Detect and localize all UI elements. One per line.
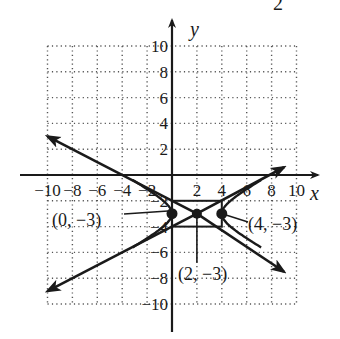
x-axis-label: x	[309, 182, 319, 204]
key-points	[167, 208, 228, 219]
x-tick-label: 2	[193, 181, 202, 200]
x-tick-labels: −10−8−6−4−2246810	[34, 181, 305, 200]
x-tick-label: 10	[288, 181, 305, 200]
y-tick-label: −10	[141, 295, 168, 314]
y-tick-label: 6	[160, 89, 169, 108]
center-label: (2, −3)	[178, 264, 227, 285]
y-tick-label: 4	[160, 114, 169, 133]
center-point	[192, 209, 202, 219]
y-tick-label: −8	[150, 269, 168, 288]
corner-fragment-text: 2	[273, 0, 283, 14]
vertex-left-leader	[124, 211, 168, 214]
vertex-right-point	[216, 208, 227, 219]
vertex-right-leader	[226, 215, 248, 222]
x-tick-label: 8	[267, 181, 276, 200]
y-axis-label: y	[188, 18, 199, 41]
y-tick-label: 10	[151, 37, 168, 56]
x-tick-label: −4	[113, 181, 132, 200]
y-tick-label: 8	[160, 63, 169, 82]
vertex-left-point	[167, 208, 178, 219]
x-tick-label: −10	[34, 181, 61, 200]
y-tick-label: 2	[160, 140, 169, 159]
graph-canvas: 2 x y −10−8−6−4−2246810 108642−2−4−6−8−1…	[0, 0, 340, 339]
hyperbola-graph: 2 x y −10−8−6−4−2246810 108642−2−4−6−8−1…	[0, 0, 340, 339]
y-tick-label: −6	[150, 243, 168, 262]
vertex-right-label: (4, −3)	[248, 214, 297, 235]
x-tick-label: −6	[88, 181, 106, 200]
vertex-left-label: (0, −3)	[52, 210, 101, 231]
x-tick-label: −8	[63, 181, 81, 200]
